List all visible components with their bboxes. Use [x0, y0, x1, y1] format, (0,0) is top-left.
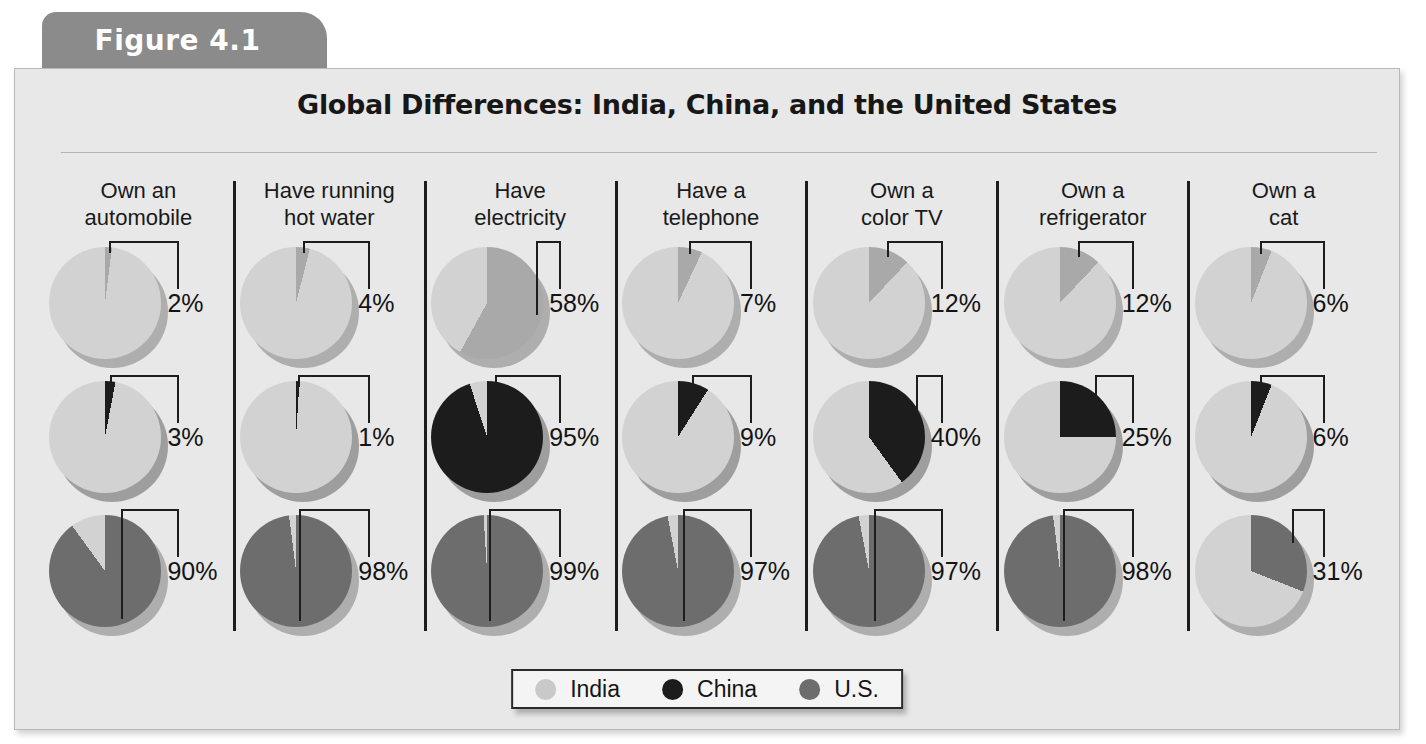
pie-disc	[49, 247, 161, 359]
pie-chart-india	[431, 247, 543, 359]
pie-chart-us	[49, 515, 161, 627]
leader-segment-horizontal	[121, 509, 178, 511]
leader-segment-horizontal	[916, 375, 940, 377]
legend-swatch-circle-icon	[799, 679, 820, 700]
pie-disc	[1195, 381, 1307, 493]
pie-disc	[240, 381, 352, 493]
leader-segment-horizontal	[495, 375, 559, 377]
pie-chart-india	[49, 247, 161, 359]
legend-item: U.S.	[799, 676, 879, 703]
chart-column: Have electricity58%95%99%	[425, 173, 616, 663]
leader-segment-vertical-end	[941, 509, 943, 557]
pie-cell: 98%	[236, 507, 422, 641]
figure-container: Figure 4.1 Global Differences: India, Ch…	[0, 0, 1426, 744]
column-cells: 12%40%97%	[809, 239, 995, 641]
column-header: Have a telephone	[663, 177, 760, 235]
title-divider-rule	[61, 152, 1377, 153]
leader-segment-horizontal	[689, 241, 750, 243]
figure-number-label: Figure 4.1	[42, 24, 313, 57]
percentage-label: 98%	[358, 557, 408, 586]
percentage-label: 99%	[549, 557, 599, 586]
column-cells: 6%6%31%	[1191, 239, 1377, 641]
pie-chart-india	[813, 247, 925, 359]
leader-segment-horizontal	[1292, 509, 1323, 511]
percentage-label: 95%	[549, 423, 599, 452]
pie-disc	[622, 381, 734, 493]
chart-column: Own a color TV12%40%97%	[806, 173, 997, 663]
percentage-label: 25%	[1122, 423, 1172, 452]
leader-segment-vertical-end	[559, 375, 561, 423]
percentage-label: 40%	[931, 423, 981, 452]
figure-panel: Global Differences: India, China, and th…	[14, 68, 1400, 730]
percentage-label: 6%	[1313, 289, 1349, 318]
pie-disc	[49, 381, 161, 493]
pie-cell: 2%	[45, 239, 231, 373]
pie-cell: 1%	[236, 373, 422, 507]
percentage-label: 31%	[1313, 557, 1363, 586]
percentage-label: 58%	[549, 289, 599, 318]
leader-segment-horizontal	[1260, 241, 1323, 243]
pie-cell: 9%	[618, 373, 804, 507]
figure-title: Global Differences: India, China, and th…	[15, 89, 1399, 120]
pie-chart-us	[813, 515, 925, 627]
pie-chart-india	[240, 247, 352, 359]
pie-disc	[431, 381, 543, 493]
pie-disc	[813, 381, 925, 493]
leader-segment-vertical-end	[1132, 509, 1134, 557]
column-header: Own a refrigerator	[1039, 177, 1147, 235]
pie-disc	[1004, 381, 1116, 493]
leader-segment-vertical-end	[750, 241, 752, 289]
leader-segment-vertical-end	[1132, 375, 1134, 423]
leader-segment-vertical-end	[177, 241, 179, 289]
pie-chart-china	[622, 381, 734, 493]
chart-column: Have running hot water4%1%98%	[234, 173, 425, 663]
pie-cell: 40%	[809, 373, 995, 507]
chart-legend: IndiaChinaU.S.	[511, 669, 903, 709]
leader-segment-vertical-end	[559, 241, 561, 289]
leader-segment-vertical-end	[941, 241, 943, 289]
leader-segment-vertical-end	[559, 509, 561, 557]
pie-cell: 98%	[1000, 507, 1186, 641]
leader-segment-horizontal	[299, 509, 368, 511]
column-header: Own an automobile	[85, 177, 193, 235]
legend-label: U.S.	[834, 676, 879, 703]
pie-disc	[1004, 515, 1116, 627]
pie-chart-china	[431, 381, 543, 493]
leader-segment-horizontal	[536, 241, 560, 243]
leader-segment-horizontal	[303, 241, 369, 243]
leader-segment-horizontal	[683, 509, 750, 511]
leader-segment-vertical-end	[1323, 241, 1325, 289]
leader-segment-vertical-end	[368, 509, 370, 557]
pie-disc	[240, 247, 352, 359]
leader-segment-horizontal	[489, 509, 559, 511]
pie-chart-grid: Own an automobile2%3%90%Have running hot…	[43, 173, 1379, 663]
leader-segment-vertical-end	[750, 509, 752, 557]
leader-segment-vertical-end	[177, 375, 179, 423]
percentage-label: 12%	[931, 289, 981, 318]
percentage-label: 90%	[167, 557, 217, 586]
pie-cell: 7%	[618, 239, 804, 373]
pie-cell: 58%	[427, 239, 613, 373]
pie-cell: 97%	[809, 507, 995, 641]
leader-segment-vertical-end	[177, 509, 179, 557]
pie-disc	[813, 247, 925, 359]
pie-chart-china	[49, 381, 161, 493]
leader-segment-horizontal	[109, 241, 178, 243]
percentage-label: 97%	[931, 557, 981, 586]
column-cells: 7%9%97%	[618, 239, 804, 641]
leader-segment-horizontal	[1260, 375, 1323, 377]
chart-column: Have a telephone7%9%97%	[616, 173, 807, 663]
leader-segment-vertical-end	[368, 241, 370, 289]
pie-disc	[1004, 247, 1116, 359]
column-header: Have running hot water	[264, 177, 395, 235]
pie-disc	[1195, 247, 1307, 359]
leader-segment-vertical-end	[1132, 241, 1134, 289]
chart-column: Own a cat6%6%31%	[1188, 173, 1379, 663]
column-header: Own a cat	[1252, 177, 1316, 235]
leader-segment-horizontal	[298, 375, 368, 377]
percentage-label: 1%	[358, 423, 394, 452]
pie-chart-us	[1195, 515, 1307, 627]
leader-segment-vertical-end	[941, 375, 943, 423]
column-cells: 12%25%98%	[1000, 239, 1186, 641]
percentage-label: 98%	[1122, 557, 1172, 586]
